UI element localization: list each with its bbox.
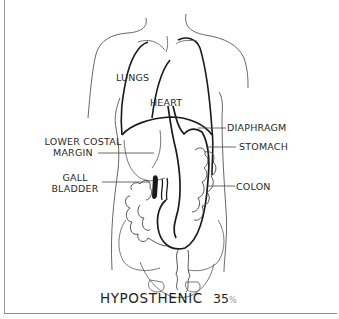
percentage-value: 35% <box>213 291 237 306</box>
label-lower-costal-margin-line2: MARGIN <box>44 147 122 158</box>
pelvis-outline <box>119 220 224 298</box>
label-gall-bladder: GALL BLADDER <box>50 172 100 194</box>
stomach-outline <box>157 106 208 249</box>
label-lower-costal-margin: LOWER COSTAL MARGIN <box>44 136 122 158</box>
label-heart: HEART <box>150 97 182 108</box>
percentage-symbol: % <box>229 296 237 305</box>
gall-bladder-shape <box>152 175 168 200</box>
label-lungs: LUNGS <box>116 72 149 83</box>
label-diaphragm: DIAPHRAGM <box>227 122 286 133</box>
label-stomach: STOMACH <box>239 141 288 152</box>
label-colon: COLON <box>236 181 271 192</box>
label-lower-costal-margin-line1: LOWER COSTAL <box>44 136 122 147</box>
diagram-caption: HYPOSTHENIC <box>100 290 203 306</box>
liver-outline <box>124 130 165 181</box>
anatomy-illustration <box>0 0 339 319</box>
label-gall-bladder-line2: BLADDER <box>50 183 100 194</box>
label-gall-bladder-line1: GALL <box>50 172 100 183</box>
percentage-number: 35 <box>213 291 229 306</box>
